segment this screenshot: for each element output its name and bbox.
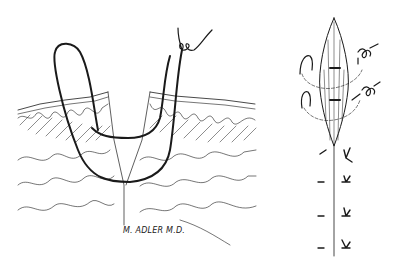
artist-signature: M. ADLER M.D. [123,226,185,235]
skin-cross-section [18,28,256,245]
wound-surface-view [300,18,380,256]
suture-illustration [0,0,394,270]
